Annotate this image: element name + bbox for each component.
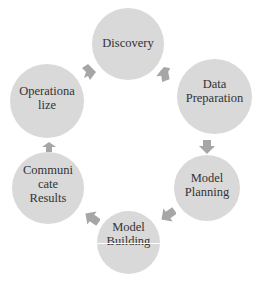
- node-label: Discovery: [102, 36, 153, 50]
- node-label: Communi cate Results: [23, 163, 73, 205]
- arrow-data-preparation-to-model-planning-icon: [199, 140, 215, 154]
- arrow-model-planning-to-model-building-icon: [160, 207, 176, 223]
- node-label: Model Planning: [185, 171, 229, 199]
- node-model-planning: Model Planning: [174, 155, 240, 221]
- node-label: Operationa lize: [19, 84, 75, 112]
- arrow-model-building-to-communicate-results-icon: [84, 210, 100, 226]
- arrow-operationalize-to-discovery-icon: [82, 64, 96, 82]
- node-communicate-results: Communi cate Results: [12, 152, 84, 224]
- cycle-diagram: Discovery Data Preparation Model Plannin…: [0, 0, 253, 284]
- node-label: Data Preparation: [186, 77, 244, 105]
- arrow-communicate-results-to-operationalize-icon: [42, 142, 56, 152]
- node-divider-line: [97, 243, 160, 244]
- arrow-discovery-to-data-preparation-icon: [156, 66, 172, 84]
- node-discovery: Discovery: [92, 8, 164, 80]
- node-data-preparation: Data Preparation: [177, 59, 252, 134]
- node-operationalize: Operationa lize: [10, 64, 84, 138]
